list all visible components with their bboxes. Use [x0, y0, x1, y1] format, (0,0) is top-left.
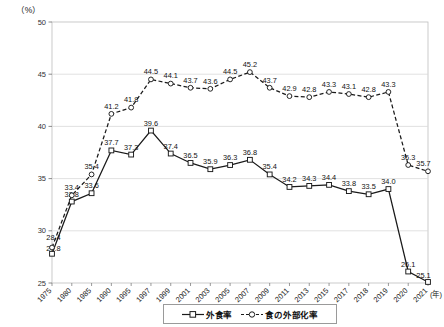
y-tick-label: 35 [38, 174, 46, 183]
data-point-label: 43.7 [183, 76, 197, 85]
data-point-marker [267, 172, 272, 177]
data-point-marker [366, 192, 371, 197]
data-point-label: 34.3 [302, 174, 316, 183]
data-point-marker [228, 163, 233, 168]
data-point-label: 35.7 [416, 159, 430, 168]
data-point-label: 37.4 [164, 142, 178, 151]
legend-item-gaishokuritsu[interactable]: 外食率 [182, 308, 232, 320]
data-point-marker [426, 280, 431, 285]
data-point-label: 45.2 [243, 60, 257, 69]
data-point-marker [406, 269, 411, 274]
data-point-label: 41.2 [104, 102, 118, 111]
data-point-label: 44.1 [164, 71, 178, 80]
data-point-marker [188, 161, 193, 166]
data-point-marker [168, 151, 173, 156]
data-point-marker [109, 111, 114, 116]
legend-marker-square-icon [182, 310, 204, 319]
data-point-marker [149, 77, 154, 82]
data-point-label: 35.4 [262, 162, 276, 171]
x-tick-label: 2018 [352, 286, 370, 304]
x-tick-label: 2007 [233, 286, 251, 304]
x-tick-label: 2015 [312, 286, 330, 304]
data-point-label: 33.6 [84, 181, 98, 190]
data-point-label: 33.8 [342, 179, 356, 188]
data-point-marker [307, 95, 312, 100]
data-point-label: 44.5 [144, 67, 158, 76]
data-point-label: 28.4 [46, 233, 60, 242]
data-point-marker [208, 86, 213, 91]
data-point-marker [89, 191, 94, 196]
x-tick-label: 2011 [273, 286, 291, 304]
legend-item-shokunogaibukaritsu[interactable]: 食の外部化率 [241, 308, 318, 320]
data-point-marker [287, 185, 292, 190]
data-point-label: 42.9 [282, 84, 296, 93]
data-point-marker [69, 199, 74, 204]
x-tick-label: 1999 [154, 286, 172, 304]
data-point-marker [366, 95, 371, 100]
data-point-label: 44.5 [223, 67, 237, 76]
data-point-marker [129, 152, 134, 157]
data-point-label: 34.0 [381, 177, 395, 186]
data-point-label: 36.5 [183, 151, 197, 160]
line-chart-plot: 2530354045501975198019851990199519971999… [0, 0, 444, 327]
y-tick-label: 25 [38, 279, 46, 288]
data-point-label: 25.1 [416, 271, 430, 280]
data-point-marker [89, 172, 94, 177]
data-point-marker [346, 189, 351, 194]
x-tick-label: 1997 [134, 286, 152, 304]
x-tick-label: 2009 [253, 286, 271, 304]
data-point-marker [287, 94, 292, 99]
x-axis-unit-label: (年) [430, 289, 442, 299]
data-point-label: 39.6 [144, 119, 158, 128]
data-point-label: 42.8 [302, 85, 316, 94]
data-point-label: 36.3 [401, 153, 415, 162]
data-point-label: 37.3 [124, 143, 138, 152]
data-point-marker [426, 169, 431, 174]
legend-label-gaishokuritsu: 外食率 [206, 308, 232, 320]
data-point-label: 43.3 [381, 80, 395, 89]
data-point-label: 34.2 [282, 175, 296, 184]
data-point-marker [327, 182, 332, 187]
plot-area [52, 22, 428, 283]
y-tick-label: 45 [38, 70, 46, 79]
data-point-marker [109, 148, 114, 153]
data-point-label: 35.9 [203, 157, 217, 166]
data-point-label: 33.4 [65, 183, 79, 192]
chart-container: （%） 253035404550197519801985199019951997… [0, 0, 444, 327]
data-point-marker [228, 77, 233, 82]
x-tick-label: 2001 [174, 286, 192, 304]
x-tick-label: 2021 [411, 286, 429, 304]
data-point-label: 43.3 [322, 80, 336, 89]
x-tick-label: 1985 [75, 286, 93, 304]
x-tick-label: 1990 [95, 286, 113, 304]
data-point-marker [69, 193, 74, 198]
data-point-marker [346, 92, 351, 97]
x-tick-label: 2013 [293, 286, 311, 304]
data-point-marker [129, 105, 134, 110]
data-point-marker [386, 187, 391, 192]
y-tick-label: 40 [38, 122, 46, 131]
data-point-label: 37.7 [104, 138, 118, 147]
data-point-label: 35.4 [84, 162, 98, 171]
x-tick-label: 2005 [213, 286, 231, 304]
y-tick-label: 30 [38, 226, 46, 235]
data-point-label: 43.6 [203, 77, 217, 86]
data-point-label: 36.8 [243, 148, 257, 157]
y-tick-label: 50 [38, 18, 46, 27]
legend-marker-circle-icon [241, 310, 263, 319]
data-point-label: 34.4 [322, 173, 336, 182]
data-point-marker [386, 90, 391, 95]
data-point-marker [149, 128, 154, 133]
data-point-marker [406, 163, 411, 168]
data-point-marker [168, 81, 173, 86]
x-tick-label: 2017 [332, 286, 350, 304]
data-point-label: 43.1 [342, 82, 356, 91]
legend-label-shokunogaibukaritsu: 食の外部化率 [265, 308, 318, 320]
data-point-marker [247, 70, 252, 75]
chart-legend: 外食率 食の外部化率 [163, 304, 337, 324]
data-point-label: 26.1 [401, 260, 415, 269]
data-point-marker [307, 184, 312, 189]
x-tick-label: 2020 [391, 286, 409, 304]
x-tick-label: 2003 [194, 286, 212, 304]
data-point-label: 42.8 [361, 85, 375, 94]
